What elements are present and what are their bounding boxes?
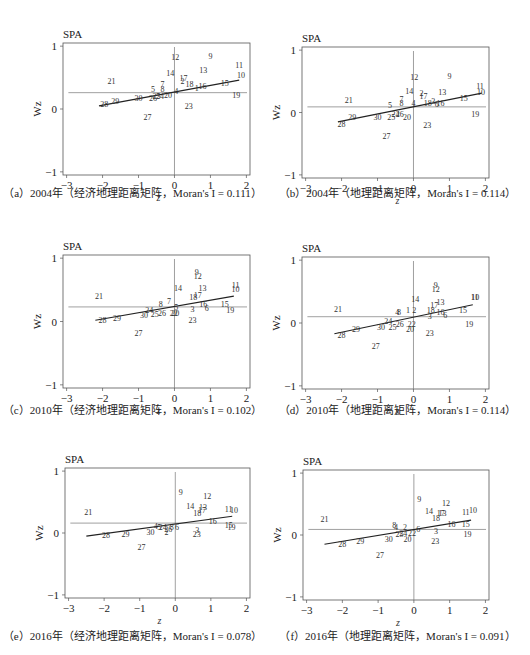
point-label: 29 <box>348 113 356 122</box>
point-label: 27 <box>135 329 143 338</box>
y-tick-label: 0 <box>291 107 297 119</box>
point-label: 10 <box>237 71 245 80</box>
scatter-panel-d: −3−2−101210−1zWzSPA212829302724252648122… <box>265 215 530 430</box>
panel-title: SPA <box>303 455 322 467</box>
point-label: 19 <box>465 320 473 329</box>
point-label: 19 <box>228 523 236 532</box>
point-label: 19 <box>471 110 479 119</box>
y-axis-label: Wz <box>31 101 43 116</box>
y-tick-label: 0 <box>52 103 58 115</box>
point-label: 12 <box>410 73 418 82</box>
y-tick-label: −1 <box>284 169 296 181</box>
point-label: 2 <box>164 528 168 537</box>
point-label: 28 <box>99 316 107 325</box>
point-label: 15 <box>460 94 468 103</box>
point-label: 28 <box>102 531 110 540</box>
moran-scatter-plot: −3−2−101210−1zWzSPA212829302724252648122… <box>265 215 530 430</box>
point-label: 18 <box>186 80 194 89</box>
point-label: 5 <box>388 101 392 110</box>
point-label: 23 <box>426 329 434 338</box>
y-tick-label: 0 <box>54 527 60 539</box>
point-label: 29 <box>356 537 364 546</box>
point-label: 6 <box>205 304 209 313</box>
point-label: 10 <box>477 88 485 97</box>
point-label: 8 <box>170 523 174 532</box>
point-label: 19 <box>226 306 234 315</box>
plot-frame <box>63 255 250 388</box>
point-label: 19 <box>464 530 472 539</box>
point-label: 12 <box>203 492 211 501</box>
point-label: 13 <box>438 88 446 97</box>
point-label: 6 <box>416 525 420 534</box>
point-label: 2 <box>180 77 184 86</box>
point-label: 10 <box>232 285 240 294</box>
point-label: 12 <box>442 499 450 508</box>
point-label: 12 <box>171 53 179 62</box>
x-tick-label: 0 <box>411 604 417 616</box>
point-label: 24 <box>156 92 164 101</box>
point-label: 29 <box>111 97 119 106</box>
y-tick-label: −1 <box>45 379 57 391</box>
x-tick-label: −3 <box>301 604 313 616</box>
moran-scatter-plot: −3−2−101210−1zWzSPA212829302757825242620… <box>265 0 530 215</box>
x-tick-label: −1 <box>134 602 146 614</box>
point-label: 1 <box>406 306 410 315</box>
y-tick-label: 1 <box>52 252 58 264</box>
point-label: 21 <box>84 508 92 517</box>
point-label: 29 <box>121 530 129 539</box>
point-label: 28 <box>338 331 346 340</box>
moran-scatter-plot: −3−2−101210−1zWzSPA212829302724252687522… <box>0 215 265 430</box>
point-label: 21 <box>95 292 103 301</box>
panel-caption: （c）2010年（经济地理距离矩阵，Moran's I = 0.102） <box>0 401 265 417</box>
x-tick-label: −2 <box>336 604 348 616</box>
point-label: 13 <box>199 66 207 75</box>
y-tick-label: −1 <box>47 589 59 601</box>
y-tick-label: 1 <box>52 40 58 52</box>
y-tick-label: 1 <box>292 467 298 479</box>
point-label: 9 <box>417 495 421 504</box>
point-label: 27 <box>144 113 152 122</box>
scatter-panel-c: −3−2−101210−1zWzSPA212829302724252687522… <box>0 215 265 430</box>
point-label: 21 <box>108 77 116 86</box>
point-label: 28 <box>100 100 108 109</box>
y-tick-label: 0 <box>291 317 297 329</box>
point-label: 12 <box>432 285 440 294</box>
point-label: 14 <box>405 87 413 96</box>
point-label: 8 <box>397 308 401 317</box>
point-label: 27 <box>376 551 384 560</box>
y-tick-label: 0 <box>292 529 298 541</box>
point-label: 23 <box>185 102 193 111</box>
point-label: 10 <box>471 293 479 302</box>
panel-caption: （a）2004年（经济地理距离矩阵，Moran's I = 0.111） <box>0 184 265 200</box>
point-label: 16 <box>209 517 217 526</box>
point-label: 4 <box>174 87 178 96</box>
point-label: 20 <box>406 325 414 334</box>
point-label: 19 <box>232 91 240 100</box>
point-label: 27 <box>383 132 391 141</box>
point-label: 6 <box>443 311 447 320</box>
point-label: 20 <box>171 309 179 318</box>
y-tick-label: 0 <box>52 316 58 328</box>
x-tick-label: 0 <box>173 602 179 614</box>
point-label: 26 <box>158 309 166 318</box>
point-label: 29 <box>113 314 121 323</box>
point-label: 18 <box>432 514 440 523</box>
y-axis-label: Wz <box>271 527 283 542</box>
y-tick-label: −1 <box>45 166 57 178</box>
panel-title: SPA <box>63 240 82 252</box>
point-label: 15 <box>221 79 229 88</box>
panel-caption: （e）2016年（经济地理距离矩阵，Moran's I = 0.078） <box>0 627 265 643</box>
point-label: 22 <box>408 529 416 538</box>
x-axis-label: z <box>157 615 162 626</box>
point-label: 9 <box>208 52 212 61</box>
point-label: 21 <box>334 305 342 314</box>
x-tick-label: 2 <box>244 602 250 614</box>
panel-caption: （d）2010年（地理距离矩阵，Moran's I = 0.114） <box>265 401 530 417</box>
moran-scatter-plot: −3−2−101210−1zWzSPA212829302745242628691… <box>0 430 265 645</box>
point-label: 4 <box>411 99 415 108</box>
moran-scatter-plot: −3−2−101210−1zWzSPA212829302757826252420… <box>0 0 265 215</box>
moran-scatter-plot: −3−2−101210−1zWzSPA212829302784225242022… <box>265 430 530 645</box>
x-tick-label: −3 <box>63 602 75 614</box>
point-label: 16 <box>199 82 207 91</box>
scatter-panel-a: −3−2−101210−1zWzSPA212829302757826252420… <box>0 0 265 215</box>
